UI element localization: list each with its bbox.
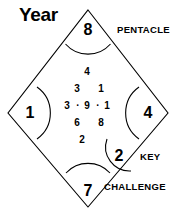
center-grid-cell: 8	[95, 118, 107, 128]
corner-number-right: 4	[140, 105, 156, 121]
label-challenge: CHALLENGE	[104, 182, 166, 192]
center-grid-cell: 3	[71, 84, 83, 94]
numerology-diamond-diagram: Year 8 1 4 7 2 PENTACLE KEY CHALLENGE 4 …	[0, 0, 185, 216]
corner-number-bottom: 7	[80, 183, 96, 199]
center-grid-cell: 1	[95, 84, 107, 94]
label-key: KEY	[140, 152, 160, 162]
center-grid-cell: 2	[76, 135, 88, 145]
center-grid-cell: 9	[81, 101, 93, 111]
center-grid-cell: 6	[71, 118, 83, 128]
page-title: Year	[19, 5, 58, 24]
corner-number-left: 1	[22, 105, 38, 121]
center-grid-cell: 1	[101, 101, 113, 111]
corner-number-key: 2	[111, 148, 127, 164]
corner-number-top: 8	[80, 22, 96, 38]
center-grid-cell: 4	[81, 67, 93, 77]
center-grid-cell: 3	[61, 101, 73, 111]
label-pentacle: PENTACLE	[117, 25, 170, 35]
